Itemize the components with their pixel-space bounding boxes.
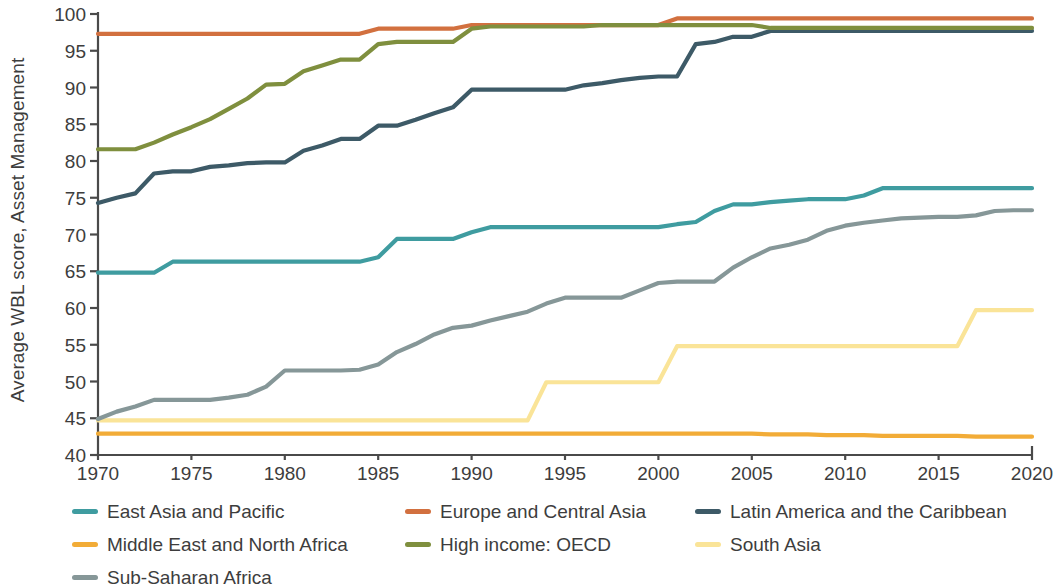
legend-item-east-asia-and-pacific[interactable]: East Asia and Pacific xyxy=(72,498,284,524)
legend-item-south-asia[interactable]: South Asia xyxy=(695,531,821,557)
series-line-south-asia xyxy=(98,310,1032,420)
plot-area xyxy=(88,8,1035,460)
legend-item-latin-america-and-the-caribbean[interactable]: Latin America and the Caribbean xyxy=(695,498,1007,524)
y-tick-label: 55 xyxy=(40,335,86,354)
axis-tick-marks xyxy=(90,14,1032,460)
series-line-east-asia-and-pacific xyxy=(98,188,1032,273)
y-axis-tick-labels: 100959085807570656055504540 xyxy=(34,0,86,460)
legend-swatch-icon xyxy=(695,509,721,514)
chart-legend: East Asia and PacificEurope and Central … xyxy=(60,496,1047,580)
series-line-high-income-oecd xyxy=(98,25,1032,149)
legend-item-europe-and-central-asia[interactable]: Europe and Central Asia xyxy=(405,498,646,524)
chart-svg xyxy=(88,8,1035,460)
y-tick-label: 85 xyxy=(40,115,86,134)
legend-label: Europe and Central Asia xyxy=(440,502,646,521)
y-tick-label: 90 xyxy=(40,78,86,97)
legend-swatch-icon xyxy=(695,542,721,547)
legend-label: Middle East and North Africa xyxy=(107,535,348,554)
y-tick-label: 45 xyxy=(40,409,86,428)
series-line-sub-saharan-africa xyxy=(98,210,1032,419)
legend-label: Latin America and the Caribbean xyxy=(730,502,1007,521)
legend-swatch-icon xyxy=(405,509,431,514)
x-axis-tick-labels: 1970197519801985199019952000200520102015… xyxy=(0,460,1047,494)
legend-item-sub-saharan-africa[interactable]: Sub-Saharan Africa xyxy=(72,564,272,588)
legend-label: Sub-Saharan Africa xyxy=(107,568,272,587)
x-tick-label: 2005 xyxy=(731,464,773,483)
x-tick-label: 1980 xyxy=(264,464,306,483)
legend-swatch-icon xyxy=(405,542,431,547)
legend-swatch-icon xyxy=(72,575,98,580)
legend-swatch-icon xyxy=(72,542,98,547)
y-tick-label: 100 xyxy=(40,5,86,24)
y-tick-label: 95 xyxy=(40,41,86,60)
legend-label: High income: OECD xyxy=(440,535,611,554)
x-tick-label: 1985 xyxy=(357,464,399,483)
x-tick-label: 2010 xyxy=(824,464,866,483)
axis-lines xyxy=(98,12,1032,455)
y-tick-label: 80 xyxy=(40,152,86,171)
y-tick-label: 65 xyxy=(40,262,86,281)
x-tick-label: 1970 xyxy=(77,464,119,483)
legend-swatch-icon xyxy=(72,509,98,514)
y-tick-label: 75 xyxy=(40,188,86,207)
y-axis-title: Average WBL score, Asset Management xyxy=(0,0,36,460)
legend-item-high-income-oecd[interactable]: High income: OECD xyxy=(405,531,611,557)
y-tick-label: 50 xyxy=(40,372,86,391)
series-line-middle-east-and-north-africa xyxy=(98,434,1032,437)
x-tick-label: 2015 xyxy=(917,464,959,483)
y-tick-label: 60 xyxy=(40,299,86,318)
x-tick-label: 2000 xyxy=(637,464,679,483)
x-tick-label: 2020 xyxy=(1011,464,1053,483)
x-tick-label: 1975 xyxy=(170,464,212,483)
series-line-latin-america-and-the-caribbean xyxy=(98,31,1032,203)
series-lines xyxy=(98,18,1032,436)
y-axis-title-text: Average WBL score, Asset Management xyxy=(7,58,29,403)
y-tick-label: 70 xyxy=(40,225,86,244)
legend-label: East Asia and Pacific xyxy=(107,502,284,521)
legend-label: South Asia xyxy=(730,535,821,554)
legend-item-middle-east-and-north-africa[interactable]: Middle East and North Africa xyxy=(72,531,348,557)
x-tick-label: 1995 xyxy=(544,464,586,483)
x-tick-label: 1990 xyxy=(450,464,492,483)
